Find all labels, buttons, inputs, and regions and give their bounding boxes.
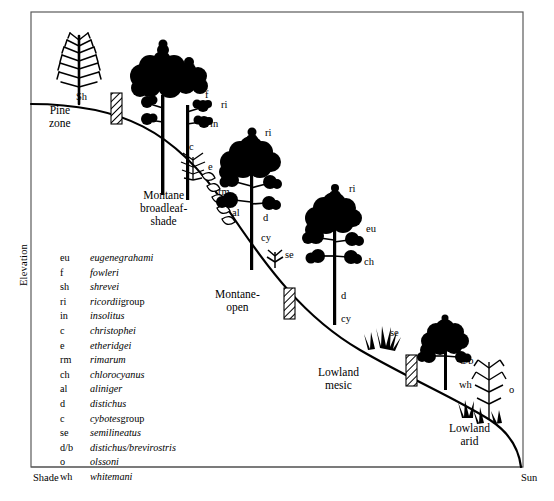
- legend-abbreviation: se: [60, 427, 90, 438]
- legend-species-name: eugenegrahami: [90, 252, 153, 263]
- species-code-marker: f: [205, 89, 209, 101]
- legend-species-name: fowleri: [90, 267, 119, 278]
- species-code-marker: c: [189, 141, 194, 153]
- legend-row: cchristophei: [60, 325, 176, 340]
- legend-row: d/bdistichus/brevirostris: [60, 442, 176, 457]
- legend-row: riricordii group: [60, 296, 176, 311]
- legend-species-name: distichus: [90, 398, 126, 409]
- species-code-marker: rm: [218, 186, 230, 198]
- legend-name-suffix: group: [121, 296, 145, 307]
- zone-divider-lowland-mesic: [406, 355, 417, 386]
- legend-species-name: cybotes: [90, 413, 121, 424]
- legend-species-name: ricordii: [90, 296, 121, 307]
- zone-label-pine: Pinezone: [49, 104, 71, 130]
- species-code-marker: cy: [341, 313, 351, 325]
- zone-divider-montane-open: [284, 288, 295, 319]
- legend-abbreviation: rm: [60, 354, 90, 365]
- species-code-marker: al: [232, 207, 240, 219]
- legend-abbreviation: eu: [60, 252, 90, 263]
- species-code-marker: d: [341, 290, 346, 302]
- legend-abbreviation: wh: [60, 471, 90, 482]
- legend-species-name: whitemani: [90, 471, 132, 482]
- legend-species-name: semilineatus: [90, 427, 141, 438]
- species-code-marker: se: [285, 249, 294, 261]
- legend-abbreviation: d: [60, 398, 90, 409]
- zone-label-montane-open: Montane-open: [215, 288, 260, 314]
- legend-species-name: etheridgei: [90, 340, 131, 351]
- zone-divider-pine-montane: [111, 93, 122, 124]
- legend-name-suffix: group: [121, 413, 145, 424]
- legend-species-name: chlorocyanus: [90, 369, 145, 380]
- species-code-marker: e: [208, 161, 213, 173]
- species-code-marker: cy: [261, 232, 271, 244]
- legend-abbreviation: d/b: [60, 442, 90, 453]
- species-code-marker: in: [210, 118, 218, 130]
- species-code-marker: ri: [265, 127, 271, 139]
- legend-species-name: shrevei: [90, 281, 119, 292]
- legend-abbreviation: c: [60, 413, 90, 424]
- elevation-habitat-diagram: Elevation Shade Sun Pinezone Montanebroa…: [0, 0, 554, 501]
- species-code-marker: ri: [349, 183, 355, 195]
- legend-abbreviation: e: [60, 340, 90, 351]
- species-code-marker: eu: [366, 223, 376, 235]
- legend-row: ccybotes group: [60, 413, 176, 428]
- legend-species-name: insolitus: [90, 310, 125, 321]
- legend-species-name: christophei: [90, 325, 136, 336]
- legend-abbreviation: c: [60, 325, 90, 336]
- legend-row: oolssoni: [60, 456, 176, 471]
- species-code-marker: d/b: [460, 355, 473, 367]
- x-axis-label-sun: Sun: [521, 472, 537, 484]
- legend-abbreviation: sh: [60, 281, 90, 292]
- y-axis-label: Elevation: [18, 244, 30, 286]
- legend-row: ddistichus: [60, 398, 176, 413]
- legend-row: shshrevei: [60, 281, 176, 296]
- zone-label-lowland-arid: Lowlandarid: [449, 422, 490, 448]
- species-code-marker: ch: [364, 256, 374, 268]
- legend-species-name: olssoni: [90, 456, 119, 467]
- legend-row: alaliniger: [60, 383, 176, 398]
- legend-row: whwhitemani: [60, 471, 176, 486]
- zone-label-montane-broadleaf-shade: Montanebroadleaf-shade: [140, 189, 187, 228]
- legend-abbreviation: f: [60, 267, 90, 278]
- legend-abbreviation: al: [60, 383, 90, 394]
- species-legend: eueugenegrahamiffowlerishshreveiriricord…: [60, 252, 176, 486]
- legend-row: eetheridgei: [60, 340, 176, 355]
- species-code-marker: Sh: [76, 91, 87, 103]
- legend-abbreviation: ri: [60, 296, 90, 307]
- legend-species-name: distichus/brevirostris: [90, 442, 176, 453]
- legend-row: ffowleri: [60, 267, 176, 282]
- legend-row: chchlorocyanus: [60, 369, 176, 384]
- legend-abbreviation: ch: [60, 369, 90, 380]
- x-axis-label-shade: Shade: [33, 472, 59, 484]
- species-code-marker: ri: [221, 99, 227, 111]
- species-code-marker: o: [509, 384, 514, 396]
- legend-species-name: aliniger: [90, 383, 122, 394]
- legend-species-name: rimarum: [90, 354, 126, 365]
- legend-row: rmrimarum: [60, 354, 176, 369]
- legend-row: sesemilineatus: [60, 427, 176, 442]
- legend-row: ininsolitus: [60, 310, 176, 325]
- species-code-marker: d: [263, 212, 268, 224]
- legend-row: eueugenegrahami: [60, 252, 176, 267]
- species-code-marker: wh: [459, 379, 472, 391]
- legend-abbreviation: in: [60, 310, 90, 321]
- legend-abbreviation: o: [60, 456, 90, 467]
- species-code-marker: se: [390, 327, 399, 339]
- zone-label-lowland-mesic: Lowlandmesic: [318, 366, 359, 392]
